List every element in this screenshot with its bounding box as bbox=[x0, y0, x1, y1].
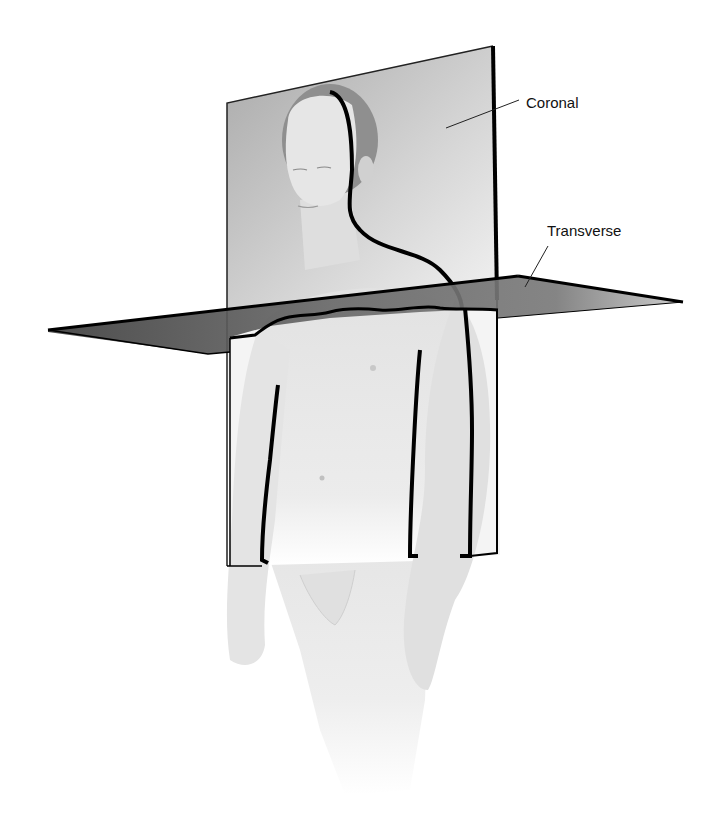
coronal-label: Coronal bbox=[526, 94, 579, 111]
transverse-label: Transverse bbox=[547, 222, 621, 239]
anatomy-diagram bbox=[0, 0, 723, 829]
